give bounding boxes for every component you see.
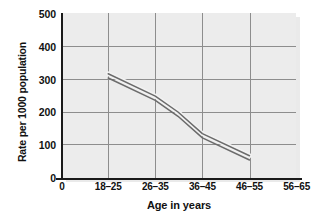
chart-figure: 500 400 300 200 100 0 0 18–25 26–35 36–4… bbox=[0, 0, 324, 223]
gridline-y-200 bbox=[62, 112, 296, 113]
gridline-y-100 bbox=[62, 144, 296, 145]
y-tick-label-500: 500 bbox=[22, 9, 56, 19]
y-axis-title: Rate per 1000 population bbox=[16, 22, 28, 182]
x-tick-label-26-35: 26–35 bbox=[142, 181, 169, 192]
y-axis-line bbox=[61, 13, 63, 180]
gridline-y-400 bbox=[62, 46, 296, 47]
gridline-y-300 bbox=[62, 79, 296, 80]
x-tick-label-0: 0 bbox=[59, 181, 64, 192]
plot-area bbox=[62, 13, 296, 178]
x-tick-label-36-45: 36–45 bbox=[189, 181, 216, 192]
gridline-x-36-45 bbox=[202, 13, 203, 178]
x-axis-title: Age in years bbox=[62, 199, 296, 211]
gridline-x-18-25 bbox=[108, 13, 109, 178]
gridline-x-46-55 bbox=[250, 13, 251, 178]
x-tick-label-46-55: 46–55 bbox=[236, 181, 263, 192]
x-tick-label-18-25: 18–25 bbox=[95, 181, 122, 192]
x-axis-line bbox=[56, 178, 302, 180]
gridline-x-26-35 bbox=[155, 13, 156, 178]
x-tick-label-56-65: 56–65 bbox=[283, 181, 310, 192]
